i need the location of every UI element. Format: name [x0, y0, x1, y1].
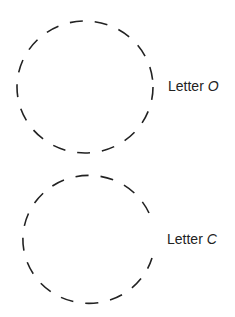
label-letter-c: Letter C — [167, 231, 217, 247]
figure-canvas — [0, 0, 235, 317]
dashed-circle-letter-c — [23, 175, 152, 303]
label-prefix: Letter — [167, 231, 203, 247]
label-letter-o: Letter O — [168, 78, 219, 94]
label-letter: O — [208, 78, 219, 94]
dashed-circle-letter-o — [17, 21, 153, 153]
label-letter: C — [207, 231, 217, 247]
label-prefix: Letter — [168, 78, 204, 94]
